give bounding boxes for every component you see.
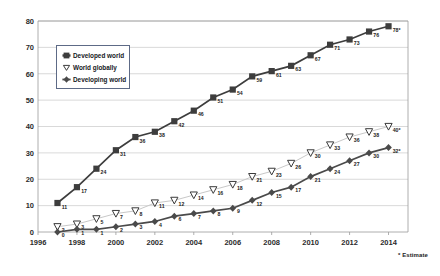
y-axis-tick-label: 70	[26, 43, 34, 52]
data-point-marker	[327, 142, 334, 149]
data-point-marker	[327, 42, 333, 48]
legend-item-developed-world: Developed world	[61, 49, 125, 61]
data-point-label: 8	[140, 211, 143, 217]
data-point-label: 5	[101, 219, 104, 225]
data-point-marker	[269, 68, 275, 74]
data-point-label: 17	[295, 187, 301, 193]
data-point-label: 0	[62, 232, 65, 238]
x-axis-tick-label: 2004	[185, 238, 203, 247]
data-point-label: 6	[179, 216, 182, 222]
data-point-label: 61	[276, 72, 282, 78]
data-point-label: 21	[256, 177, 262, 183]
data-point-label: 23	[276, 172, 282, 178]
data-point-marker	[74, 184, 80, 190]
data-point-label: 2	[120, 227, 123, 233]
legend-label-world-globally: World globally	[72, 64, 117, 71]
diamond-marker-icon	[61, 75, 72, 84]
x-axis-tick-label: 2008	[263, 238, 280, 247]
data-point-label: 40*	[393, 127, 402, 133]
data-point-label: 51	[217, 98, 223, 104]
data-point-label: 11	[159, 203, 165, 209]
data-point-label: 42	[179, 122, 185, 128]
data-point-label: 16	[217, 190, 223, 196]
x-axis-tick-label: 2014	[380, 238, 398, 247]
y-axis-tick-label: 30	[26, 149, 34, 158]
data-point-marker	[171, 213, 178, 220]
data-point-label: 38	[159, 132, 165, 138]
chart-plot-area: 0102030405060708019961998200020022004200…	[0, 0, 440, 276]
data-point-label: 63	[295, 66, 301, 72]
data-point-marker	[152, 218, 159, 225]
triangle-down-marker-icon	[61, 63, 72, 72]
x-axis-tick-label: 2006	[224, 238, 241, 247]
data-point-label: 7	[120, 214, 123, 220]
data-point-marker	[385, 23, 391, 29]
data-point-label: 27	[354, 161, 360, 167]
y-axis-tick-label: 80	[26, 17, 34, 26]
chart-legend: Developed world World globally Developin…	[56, 45, 130, 89]
legend-item-developing-world: Developing world	[61, 73, 125, 85]
x-axis-tick-label: 1996	[30, 238, 47, 247]
data-point-label: 15	[276, 193, 282, 199]
data-point-label: 17	[81, 188, 87, 194]
data-point-label: 76	[373, 32, 379, 38]
data-point-label: 33	[334, 145, 340, 151]
data-point-marker	[346, 134, 353, 141]
data-point-label: 14	[198, 195, 204, 201]
data-point-label: 71	[334, 45, 340, 51]
data-point-label: 18	[237, 185, 243, 191]
square-marker-icon	[61, 51, 72, 60]
data-point-marker	[191, 108, 197, 114]
data-point-marker	[249, 197, 256, 204]
data-point-label: 78*	[393, 27, 402, 33]
data-point-label: 4	[159, 222, 162, 228]
data-point-label: 24	[334, 169, 340, 175]
data-point-label: 73	[354, 40, 360, 46]
data-point-label: 12	[256, 201, 262, 207]
data-point-marker	[132, 221, 139, 228]
x-axis-tick-label: 2002	[146, 238, 163, 247]
data-point-marker	[210, 207, 217, 214]
x-axis-tick-label: 2000	[108, 238, 125, 247]
data-point-label: 67	[315, 56, 321, 62]
data-point-marker	[249, 73, 255, 79]
y-axis-tick-label: 40	[26, 122, 34, 131]
series-line-world-globally	[57, 127, 388, 227]
data-point-label: 26	[295, 164, 301, 170]
data-point-marker	[268, 189, 275, 196]
data-point-label: 12	[179, 201, 185, 207]
data-point-marker	[366, 149, 373, 156]
data-point-marker	[132, 134, 138, 140]
data-point-label: 24	[101, 169, 107, 175]
data-point-marker	[54, 229, 61, 236]
data-point-label: 38	[373, 132, 379, 138]
data-point-label: 46	[198, 111, 204, 117]
data-point-marker	[93, 166, 99, 172]
data-point-label: 31	[120, 151, 126, 157]
data-point-label: 59	[256, 77, 262, 83]
data-point-marker	[113, 223, 120, 230]
data-point-marker	[327, 165, 334, 172]
x-axis-tick-label: 2012	[341, 238, 358, 247]
data-point-marker	[385, 144, 392, 151]
y-axis-tick-label: 20	[26, 175, 34, 184]
legend-item-world-globally: World globally	[61, 61, 125, 73]
data-point-label: 1	[101, 230, 104, 236]
data-point-label: 1	[81, 230, 84, 236]
y-axis-tick-label: 0	[30, 228, 34, 237]
y-axis-tick-label: 50	[26, 96, 34, 105]
data-point-marker	[288, 160, 295, 167]
data-point-label: 21	[315, 177, 321, 183]
data-point-label: 36	[354, 137, 360, 143]
data-point-label: 3	[140, 224, 143, 230]
estimate-footnote: * Estimate	[398, 252, 428, 258]
data-point-label: 11	[62, 204, 68, 210]
data-point-label: 30	[373, 153, 379, 159]
x-axis-tick-label: 1998	[69, 238, 86, 247]
data-point-marker	[171, 118, 177, 124]
data-point-marker	[190, 210, 197, 217]
data-point-marker	[210, 94, 216, 100]
data-point-label: 9	[237, 208, 240, 214]
data-point-marker	[366, 28, 372, 34]
data-point-marker	[346, 157, 353, 164]
